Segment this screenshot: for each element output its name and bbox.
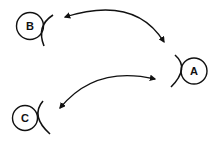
node-b: B [17, 13, 54, 47]
node-a-label: A [190, 65, 198, 77]
node-b-label: B [26, 20, 34, 32]
receptor-arc-c [38, 101, 50, 134]
node-c: C [13, 101, 51, 134]
node-a: A [171, 55, 207, 87]
diagram-svg: B A C [0, 0, 223, 143]
edge-c-a-arrow [60, 76, 155, 108]
edge-b-a-arrow [65, 10, 164, 42]
node-c-label: C [21, 112, 29, 124]
receptor-arc-a [171, 55, 182, 87]
diagram-canvas: B A C [0, 0, 223, 143]
